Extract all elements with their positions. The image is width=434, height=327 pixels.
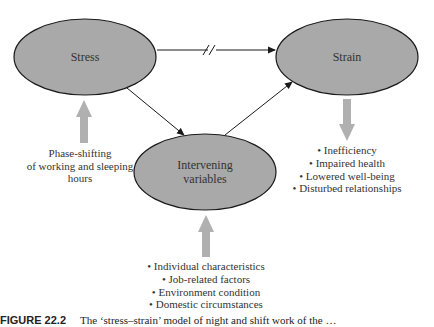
list-item: • Domestic circumstances <box>136 298 276 311</box>
intervening-inputs-list: • Individual characteristics • Job-relat… <box>136 260 276 311</box>
figure-caption: FIGURE 22.2The ‘stress–strain’ model of … <box>0 314 434 327</box>
list-item: • Environment condition <box>136 286 276 299</box>
intervening-inputs-up-arrow-icon <box>198 215 214 257</box>
list-item: • Job-related factors <box>136 273 276 286</box>
caption-text: The ‘stress–strain’ model of night and s… <box>80 314 336 326</box>
list-item: • Impaired health <box>282 157 412 170</box>
list-item: • Disturbed relationships <box>282 182 412 195</box>
intervening-label-line1: Intervening <box>155 158 255 172</box>
stress-input-text: Phase-shifting of working and sleeping h… <box>10 147 150 185</box>
stress-label: Stress <box>45 50 125 64</box>
break-mark <box>209 45 215 55</box>
strain-label: Strain <box>307 50 387 64</box>
strain-outcomes-list: • Inefficiency • Impaired health • Lower… <box>282 144 412 195</box>
stress-input-line: of working and sleeping <box>10 160 150 173</box>
stress-to-strain-connector <box>157 45 275 55</box>
list-item: • Lowered well-being <box>282 170 412 183</box>
stress-input-line: hours <box>10 172 150 185</box>
stress-to-intervening-arrow <box>127 88 184 135</box>
stress-input-line: Phase-shifting <box>10 147 150 160</box>
list-item: • Individual characteristics <box>136 260 276 273</box>
strain-outcomes-down-arrow-icon <box>339 99 355 141</box>
intervening-label: Intervening variables <box>155 158 255 186</box>
intervening-label-line2: variables <box>155 172 255 186</box>
list-item: • Inefficiency <box>282 144 412 157</box>
figure-number: FIGURE 22.2 <box>0 314 66 326</box>
phase-shifting-up-arrow-icon <box>76 100 92 143</box>
intervening-to-strain-arrow <box>225 82 292 135</box>
